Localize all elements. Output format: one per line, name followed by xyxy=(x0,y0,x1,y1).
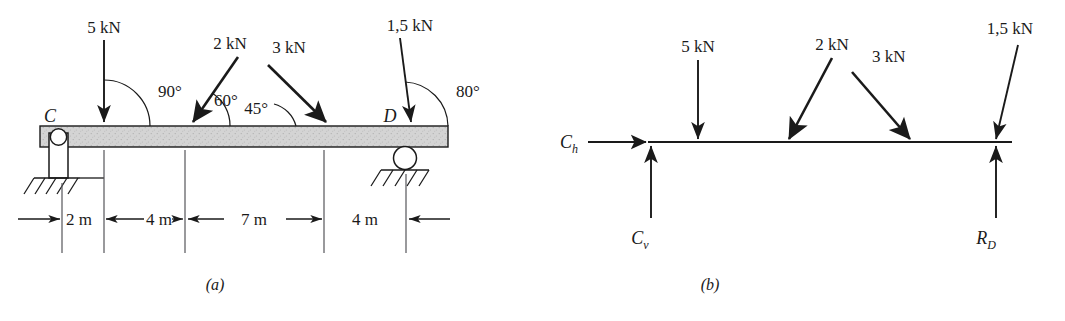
angle-80-label: 80° xyxy=(456,82,480,101)
panel-b: Ch Cv 5 kN 2 kN 3 kN 1,5 kN RD (b xyxy=(560,19,1033,294)
dim-4m-left-label: 4 m xyxy=(146,210,172,229)
roller-circle xyxy=(394,147,417,170)
beam-figure: C D 5 kN 90° 2 kN 60° xyxy=(0,0,1065,321)
support-roller-d xyxy=(371,147,429,187)
load-2kn-label: 2 kN xyxy=(213,34,247,53)
load-2kn-b-arrow xyxy=(789,58,832,139)
load-15kn-b xyxy=(996,45,1018,139)
dimension-4m-right: 4 m xyxy=(352,210,450,229)
beam-rect xyxy=(40,126,448,147)
angle-arc-90 xyxy=(104,80,150,126)
load-15kn-a xyxy=(400,38,448,126)
dim-4m-right-label: 4 m xyxy=(352,210,378,229)
load-5kn-label: 5 kN xyxy=(87,18,121,37)
pin-circle xyxy=(50,129,66,145)
reaction-rd-base: R xyxy=(975,228,987,248)
support-label-c: C xyxy=(44,106,57,126)
angle-90-label: 90° xyxy=(158,82,182,101)
load-5kn-b-label: 5 kN xyxy=(681,37,715,56)
load-3kn-arrow xyxy=(268,65,326,122)
angle-arc-45 xyxy=(274,104,296,126)
load-2kn-arrow xyxy=(193,57,238,122)
load-2kn-b xyxy=(789,58,832,139)
load-2kn-b-label: 2 kN xyxy=(815,35,849,54)
load-3kn-b-arrow xyxy=(852,72,910,139)
angle-60-label: 60° xyxy=(214,91,238,110)
load-3kn-b-label: 3 kN xyxy=(872,47,906,66)
panel-a: C D 5 kN 90° 2 kN 60° xyxy=(18,16,480,294)
load-3kn-label: 3 kN xyxy=(272,38,306,57)
panel-a-caption: (a) xyxy=(206,276,225,294)
dim-2m-label: 2 m xyxy=(66,210,92,229)
dim-7m-label: 7 m xyxy=(241,210,267,229)
reaction-cv-label: Cv xyxy=(631,228,649,252)
dimension-2m: 2 m xyxy=(18,210,92,229)
support-label-d: D xyxy=(383,106,397,126)
reaction-ch-label: Ch xyxy=(560,132,578,156)
load-15kn-label: 1,5 kN xyxy=(387,16,433,35)
figure-canvas: C D 5 kN 90° 2 kN 60° xyxy=(0,0,1065,321)
dimension-extension-lines xyxy=(62,150,406,253)
dimension-7m: 7 m xyxy=(188,210,322,229)
roller-ground-hatch xyxy=(371,170,429,186)
beam-member xyxy=(40,126,448,147)
load-15kn-b-label: 1,5 kN xyxy=(987,19,1033,38)
reaction-rd-label: RD xyxy=(975,228,996,252)
load-5kn-a xyxy=(104,40,150,126)
angle-45-label: 45° xyxy=(244,99,268,118)
panel-b-caption: (b) xyxy=(701,276,720,294)
pin-ground-hatch xyxy=(24,178,78,194)
load-3kn-a xyxy=(268,65,326,126)
load-3kn-b xyxy=(852,72,910,139)
load-15kn-b-arrow xyxy=(996,45,1018,139)
dimension-4m-left: 4 m xyxy=(106,210,183,229)
reaction-rd-sub: D xyxy=(986,238,996,252)
reaction-ch-sub: h xyxy=(572,142,578,156)
load-15kn-arrow xyxy=(400,38,411,122)
reaction-cv-sub: v xyxy=(643,238,649,252)
